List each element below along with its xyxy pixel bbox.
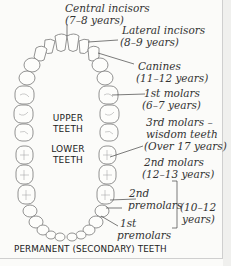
- 3rd-molars-age: (Over 17 years): [144, 140, 227, 152]
- lateral-incisors-age: (8–9 years): [120, 36, 179, 48]
- 3rd-molars-label-2: wisdom teeth: [146, 128, 218, 140]
- 3rd-molars-label: 3rd molars –: [146, 116, 213, 128]
- lower-teeth-label-line2: TEETH: [50, 155, 86, 166]
- 1st-premolars-label: 1st: [120, 217, 136, 229]
- 2nd-premolars-label: 2nd: [129, 187, 149, 199]
- lateral-incisors-label: Lateral incisors: [122, 24, 205, 36]
- canines-age: (11–12 years): [136, 72, 208, 84]
- page-edge-shadow: [223, 0, 231, 266]
- upper-premolars: [19, 58, 113, 85]
- upper-teeth-label-line1: UPPER: [50, 113, 86, 124]
- lower-premolars: [23, 205, 109, 228]
- canines-label: Canines: [138, 60, 181, 72]
- upper-teeth-label: UPPER TEETH: [50, 113, 86, 135]
- central-incisors-age: (7–8 years): [65, 14, 124, 26]
- upper-central-incisors: [55, 34, 79, 52]
- upper-teeth-label-line2: TEETH: [50, 124, 86, 135]
- 2nd-molars-label: 2nd molars: [144, 156, 204, 168]
- diagram-caption: PERMANENT (SECONDARY) TEETH: [14, 244, 167, 254]
- lower-front-teeth: [37, 225, 95, 241]
- lower-teeth-label: LOWER TEETH: [50, 144, 86, 166]
- upper-canines: [34, 46, 99, 61]
- 1st-premolars-label-2: premolars: [117, 229, 171, 241]
- premolars-age-2: years): [182, 213, 215, 225]
- lower-teeth-label-line1: LOWER: [50, 144, 86, 155]
- premolars-age: (10–12: [180, 201, 216, 213]
- central-incisors-label: Central incisors: [65, 2, 150, 14]
- 1st-molars-label: 1st molars: [144, 87, 200, 99]
- 1st-molars-age: (6–7 years): [142, 99, 201, 111]
- 2nd-premolars-label-2: premolars: [128, 199, 182, 211]
- 2nd-molars-age: (12–13 years): [142, 168, 214, 180]
